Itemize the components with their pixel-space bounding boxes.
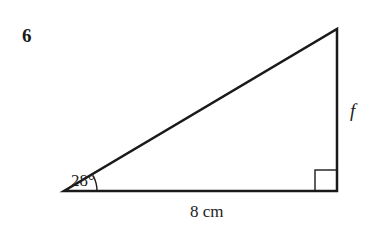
triangle-diagram: 28° 8 cm f	[0, 0, 374, 237]
triangle	[64, 29, 337, 191]
angle-label: 28°	[71, 171, 95, 190]
base-label: 8 cm	[190, 202, 224, 221]
right-angle-marker	[315, 170, 337, 191]
side-label: f	[350, 100, 358, 121]
